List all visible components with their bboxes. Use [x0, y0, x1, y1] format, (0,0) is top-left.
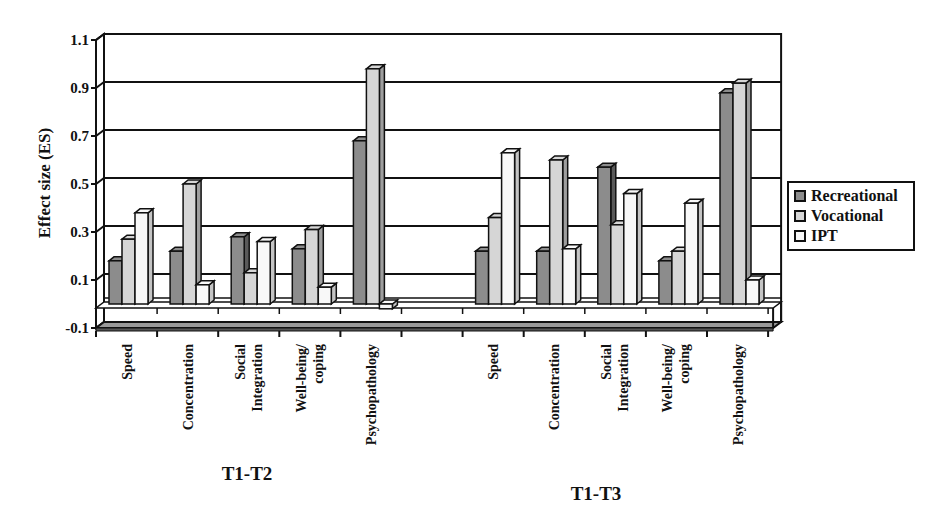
legend-swatch-ipt: [794, 230, 806, 242]
group-label-t1-t3: T1-T3: [571, 483, 622, 504]
bar-ipt: [746, 276, 764, 304]
legend-item-recreational: Recreational: [794, 186, 913, 206]
category-label: Well-being/coping: [660, 343, 692, 413]
category-label: Psychopathology: [731, 344, 746, 445]
bar-ipt: [624, 190, 642, 304]
legend-swatch-recreational: [794, 190, 806, 202]
y-axis: 1.10.90.70.50.30.1-0.1: [65, 32, 96, 336]
y-tick-label: 1.1: [70, 32, 89, 48]
category-label: Speed: [120, 344, 135, 380]
legend-label: Vocational: [811, 207, 883, 225]
legend-item-vocational: Vocational: [794, 206, 913, 226]
category-label: SocialIntegration: [599, 344, 631, 412]
y-tick-label: 0.5: [70, 176, 89, 192]
y-tick-label: 0.1: [70, 272, 89, 288]
y-tick-label: 0.7: [70, 128, 89, 144]
legend-label: IPT: [811, 227, 838, 245]
category-label: Concentration: [181, 344, 196, 431]
category-label: Well-being/coping: [294, 343, 326, 413]
group-label-t1-t2: T1-T2: [222, 463, 273, 484]
bar-ipt: [257, 238, 275, 304]
category-label: Psychopathology: [364, 344, 379, 445]
legend-label: Recreational: [811, 187, 898, 205]
category-label: Speed: [486, 344, 501, 380]
legend-swatch-vocational: [794, 210, 806, 222]
bar-vocational: [733, 79, 751, 304]
legend-item-ipt: IPT: [794, 226, 913, 246]
effect-size-chart: 1.10.90.70.50.30.1-0.1 SpeedConcentratio…: [0, 0, 947, 511]
bar-ipt: [318, 283, 336, 304]
y-axis-title: Effect size (ES): [35, 128, 54, 238]
y-tick-label: -0.1: [65, 320, 89, 336]
bar-ipt: [379, 300, 397, 309]
bar-ipt: [563, 245, 581, 304]
category-label: Concentration: [547, 344, 562, 431]
bar-ipt: [502, 149, 520, 304]
bar-ipt: [685, 199, 703, 304]
y-tick-label: 0.9: [70, 80, 89, 96]
chart-legend: Recreational Vocational IPT: [787, 181, 915, 251]
bar-ipt: [135, 209, 153, 304]
category-label: SocialIntegration: [233, 344, 265, 412]
bar-vocational: [366, 65, 384, 304]
y-tick-label: 0.3: [70, 224, 89, 240]
bar-ipt: [196, 281, 214, 304]
